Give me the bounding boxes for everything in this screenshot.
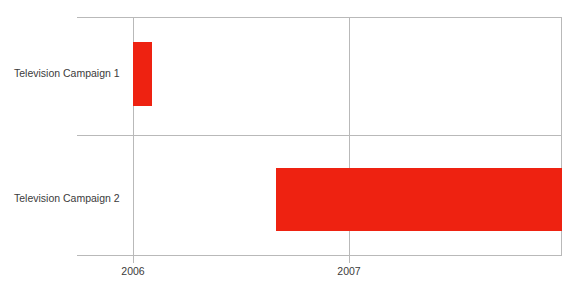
x-tick-label-2006: 2006: [121, 265, 144, 277]
category-label-television-campaign-1: Television Campaign 1: [14, 67, 120, 79]
category-label-television-campaign-2: Television Campaign 2: [14, 192, 120, 204]
bar-television-campaign-2[interactable]: [276, 168, 562, 231]
gridline-horizontal: [77, 135, 562, 136]
bar-television-campaign-1[interactable]: [133, 42, 152, 106]
gantt-chart: Television Campaign 1 Television Campaig…: [0, 0, 579, 293]
x-tick-label-2007: 2007: [337, 265, 360, 277]
